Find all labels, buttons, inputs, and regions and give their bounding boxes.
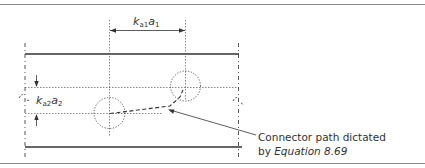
longitudinal-spacing-label: ka1a1 bbox=[133, 15, 159, 32]
annotation-line-1: Connector path dictated bbox=[258, 131, 386, 144]
annotation-line-2: by Equation 8.69 bbox=[258, 145, 347, 158]
side-dimension-lower-arrowhead bbox=[34, 114, 38, 120]
leader-line bbox=[170, 110, 256, 135]
transverse-spacing-label: ka2a2 bbox=[36, 94, 62, 111]
leader-arrowhead bbox=[168, 109, 175, 113]
side-dimension-upper-arrowhead bbox=[34, 81, 38, 87]
dimension-arrowhead-left bbox=[110, 28, 116, 32]
left-break-squiggle bbox=[19, 94, 30, 101]
equation-reference: Equation 8.69 bbox=[274, 145, 347, 157]
dimension-arrowhead-right bbox=[179, 28, 185, 32]
